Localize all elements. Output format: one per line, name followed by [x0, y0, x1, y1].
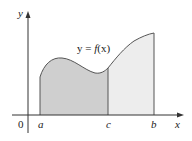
y-axis-label: y	[17, 7, 23, 19]
y-axis-arrow-icon	[26, 11, 31, 18]
tick-label-a: a	[38, 118, 44, 130]
area-under-curve-figure: y x 0 a c b y = f(x)	[0, 0, 192, 141]
tick-label-b: b	[151, 118, 157, 130]
x-axis-arrow-icon	[177, 113, 184, 118]
curve-label-arg: (x)	[97, 42, 110, 55]
region-c-to-b	[108, 33, 154, 115]
curve-label: y = f(x)	[77, 42, 110, 55]
origin-label: 0	[18, 118, 24, 130]
region-a-to-c	[40, 58, 108, 115]
tick-label-c: c	[106, 118, 111, 130]
curve-label-lhs: y =	[77, 42, 94, 54]
x-axis-label: x	[174, 118, 180, 130]
